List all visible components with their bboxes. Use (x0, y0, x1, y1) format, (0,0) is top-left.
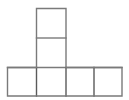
cell-middle (37, 38, 67, 68)
cell-bottom-4 (94, 68, 122, 97)
cell-top (37, 9, 67, 39)
cell-bottom-1 (8, 68, 37, 97)
cell-fills (8, 9, 123, 97)
figure-container (0, 0, 129, 100)
cell-bottom-2 (37, 68, 67, 97)
cell-bottom-3 (66, 68, 94, 97)
polyomino-net-diagram (0, 0, 129, 100)
